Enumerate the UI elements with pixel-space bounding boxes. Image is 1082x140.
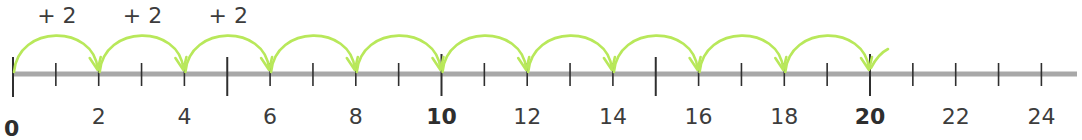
tick-label-20: 20 bbox=[855, 104, 886, 129]
tick-label-4: 4 bbox=[177, 104, 191, 129]
tick-label-12: 12 bbox=[513, 104, 541, 129]
tick-label-10: 10 bbox=[426, 104, 457, 129]
continue-arc-tail bbox=[871, 49, 888, 68]
tick-label-6: 6 bbox=[263, 104, 277, 129]
jump-arcs bbox=[14, 36, 888, 72]
tick-label-0: 0 bbox=[4, 116, 19, 140]
tick-label-18: 18 bbox=[770, 104, 798, 129]
tick-label-16: 16 bbox=[685, 104, 713, 129]
jump-label: + 2 bbox=[209, 3, 248, 28]
tick-label-8: 8 bbox=[349, 104, 363, 129]
tick-label-2: 2 bbox=[92, 104, 106, 129]
tick-label-14: 14 bbox=[599, 104, 627, 129]
number-line-diagram: 024681012141618202224 + 2+ 2+ 2 bbox=[0, 0, 1082, 140]
jump-label: + 2 bbox=[37, 3, 76, 28]
jump-labels: + 2+ 2+ 2 bbox=[37, 3, 248, 28]
tick-labels: 024681012141618202224 bbox=[4, 104, 1055, 140]
tick-label-22: 22 bbox=[942, 104, 970, 129]
tick-label-24: 24 bbox=[1027, 104, 1055, 129]
jump-label: + 2 bbox=[123, 3, 162, 28]
